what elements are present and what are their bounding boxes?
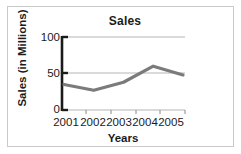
chart-screenshot: Sales Sales (in Millions) 100 50 0 2001 … xyxy=(0,0,241,154)
gridlines xyxy=(62,37,185,110)
x-axis-title: Years xyxy=(58,132,188,144)
y-axis-line xyxy=(62,36,68,111)
x-tick-label-2005: 2005 xyxy=(155,116,187,128)
data-series-sales xyxy=(64,66,183,90)
plot-area xyxy=(0,0,241,154)
x-axis-ticks xyxy=(86,110,185,114)
